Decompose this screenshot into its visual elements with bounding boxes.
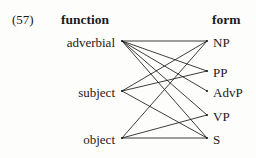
node-point-NP	[206, 40, 208, 42]
connection-edges-layer	[0, 0, 256, 158]
edge-subject-to-PP	[122, 71, 207, 91]
node-point-adverbial	[121, 40, 123, 42]
node-point-PP	[206, 70, 208, 72]
node-point-object	[121, 137, 123, 139]
edge-adverbial-to-VP	[122, 41, 207, 115]
node-point-VP	[206, 114, 208, 116]
edge-object-to-VP	[122, 115, 207, 138]
edge-subject-to-S	[122, 91, 207, 138]
node-point-S	[206, 137, 208, 139]
node-point-AdvP	[206, 90, 208, 92]
figure-container: (57) function form adverbial subject obj…	[0, 0, 256, 158]
node-point-subject	[121, 90, 123, 92]
